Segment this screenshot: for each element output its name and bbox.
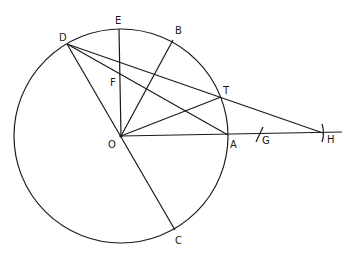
segment-oh-extended <box>121 132 342 136</box>
label-f: F <box>110 77 116 88</box>
label-t: T <box>222 85 230 96</box>
segment-dh <box>67 44 323 133</box>
label-e: E <box>115 15 121 26</box>
segment-ob <box>121 40 173 136</box>
label-d: D <box>59 32 67 43</box>
label-g: G <box>262 135 270 146</box>
geometry-diagram: D E B F T O A G H C <box>0 0 350 261</box>
diagram-canvas: D E B F T O A G H C <box>0 0 350 261</box>
point-o-dot <box>119 134 122 137</box>
label-b: B <box>175 25 182 36</box>
label-c: C <box>175 235 182 246</box>
segment-eo <box>119 29 121 136</box>
label-o: O <box>108 139 116 150</box>
label-h: H <box>327 134 335 145</box>
label-a: A <box>230 139 237 150</box>
segment-da <box>67 44 228 135</box>
